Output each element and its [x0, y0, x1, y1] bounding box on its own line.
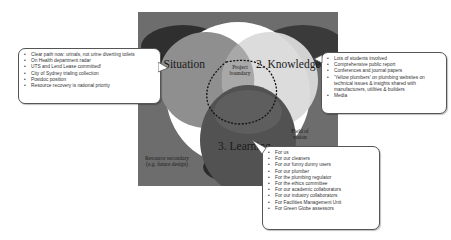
project-boundary-label: Project boundary [222, 64, 258, 76]
learning-callout-pointer [252, 140, 268, 156]
situation-callout: Clear path now: urinals, not urine diver… [18, 48, 161, 104]
learning-callout: For us For our cleaners For our funny du… [262, 146, 380, 230]
list-item: For Green Globe assessors [275, 206, 373, 212]
knowledge-callout-pointer [314, 55, 324, 65]
situation-callout-pointer [158, 62, 170, 74]
field-of-vision-label: Field of vision [286, 128, 314, 140]
list-item: Media [334, 93, 440, 99]
resource-secondary-label: Resource secondary (e.g. future design) [140, 155, 194, 167]
list-item: 'Yellow plumbers' on plumbing websites o… [334, 75, 442, 94]
list-item: Resource recovery is national priority [31, 83, 154, 89]
knowledge-label: 2. Knowledge [256, 58, 321, 70]
knowledge-callout: Lots of students involved Comprehensive … [321, 52, 447, 114]
